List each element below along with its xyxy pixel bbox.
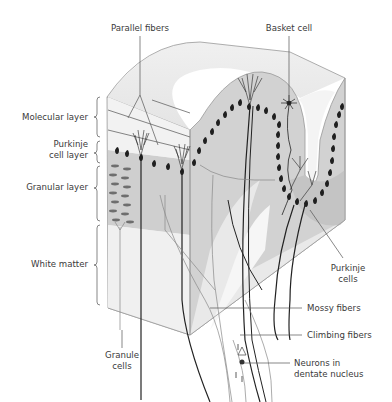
- label-neurons-dentate-line2: dentate nucleus: [294, 369, 364, 379]
- label-granule-cells-line2: cells: [112, 361, 132, 371]
- label-white-matter: White matter: [31, 259, 88, 269]
- cerebellum-diagram: Parallel fibers Basket cell Molecular la…: [0, 0, 392, 402]
- label-basket-cell: Basket cell: [266, 23, 313, 33]
- label-purkinje-cell-layer-line2: cell layer: [49, 150, 89, 160]
- label-parallel-fibers: Parallel fibers: [111, 23, 170, 33]
- label-climbing-fibers: Climbing fibers: [307, 330, 372, 340]
- label-purkinje-cells-line1: Purkinje: [331, 263, 366, 273]
- label-mossy-fibers: Mossy fibers: [307, 303, 361, 313]
- label-purkinje-cells-line2: cells: [338, 274, 358, 284]
- label-molecular-layer: Molecular layer: [22, 112, 88, 122]
- label-granule-cells-line1: Granule: [105, 350, 139, 360]
- label-purkinje-cell-layer-line1: Purkinje: [54, 139, 89, 149]
- label-granular-layer: Granular layer: [26, 182, 88, 192]
- label-neurons-dentate-line1: Neurons in: [294, 358, 340, 368]
